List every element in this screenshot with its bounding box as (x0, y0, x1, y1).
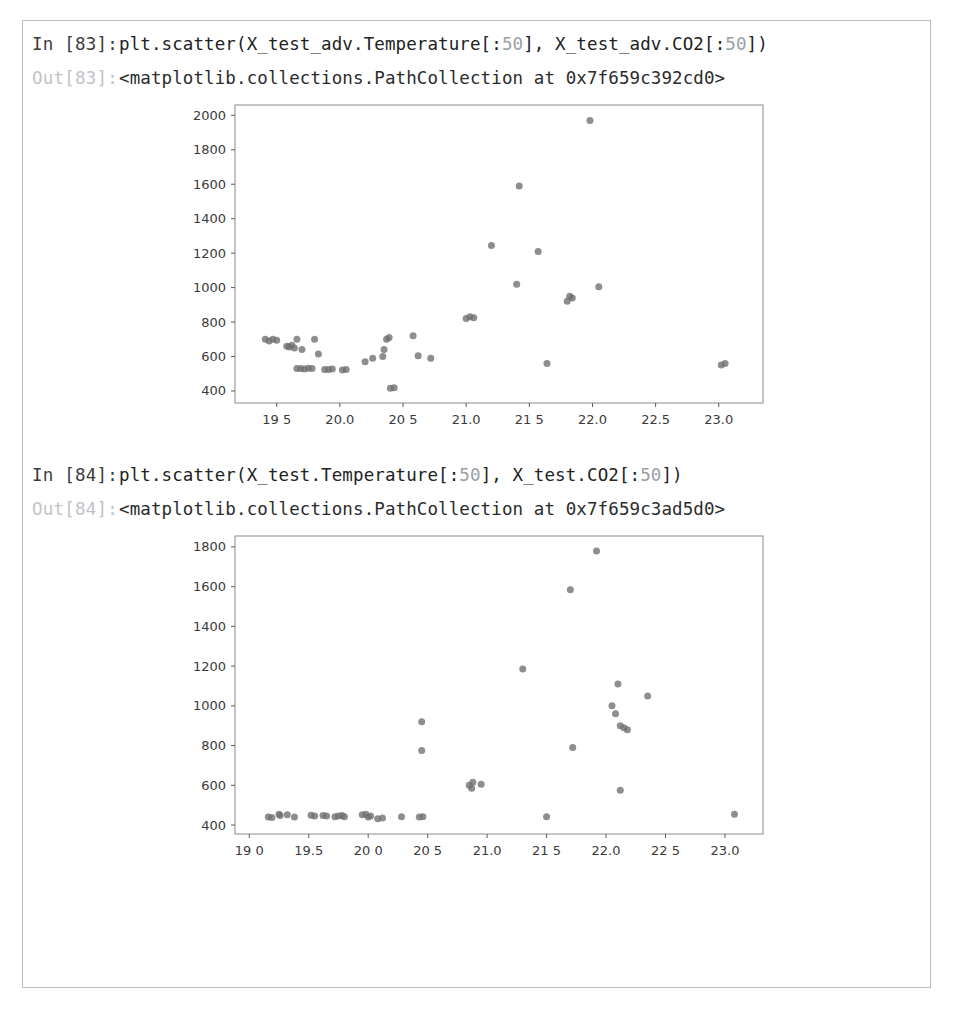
scatter-point (410, 332, 417, 339)
code-number: 50 (640, 465, 661, 485)
x-tick-label: 19 0 (235, 843, 264, 858)
x-tick-label: 20 5 (413, 843, 442, 858)
scatter-point (488, 242, 495, 249)
code-number: 50 (725, 34, 746, 54)
scatter-point (593, 547, 600, 554)
code-number: 50 (459, 465, 480, 485)
code-segment: ], X_test_adv.CO2[: (523, 34, 725, 54)
scatter-plot-adv: 40060080010001200140016001800200019 520.… (163, 95, 783, 445)
scatter-point (418, 747, 425, 754)
scatter-point (468, 785, 475, 792)
scatter-point (284, 811, 291, 818)
scatter-point (291, 814, 298, 821)
scatter-point (535, 248, 542, 255)
scatter-point (519, 666, 526, 673)
scatter-point (722, 360, 729, 367)
scatter-point (386, 334, 393, 341)
notebook-cell-84: In [84]: plt.scatter(X_test.Temperature[… (23, 456, 930, 886)
scatter-point (298, 346, 305, 353)
figure-83: 40060080010001200140016001800200019 520.… (23, 95, 930, 455)
scatter-point (415, 352, 422, 359)
y-tick-label: 1400 (193, 211, 226, 226)
x-tick-label: 19.5 (294, 843, 323, 858)
code-line-84[interactable]: plt.scatter(X_test.Temperature[:50], X_t… (119, 458, 683, 492)
y-tick-label: 600 (201, 778, 226, 793)
x-tick-label: 22.5 (641, 412, 670, 427)
out-prompt-84: Out[84]: (23, 492, 119, 526)
scatter-point (391, 384, 398, 391)
y-tick-label: 1600 (193, 579, 226, 594)
x-tick-label: 20 5 (389, 412, 418, 427)
x-tick-label: 23.0 (704, 412, 733, 427)
x-tick-label: 21.0 (473, 843, 502, 858)
scatter-point (513, 281, 520, 288)
notebook-cell-83: In [83]: plt.scatter(X_test_adv.Temperat… (23, 21, 930, 455)
out-prompt-83: Out[83]: (23, 61, 119, 95)
x-tick-label: 21.0 (452, 412, 481, 427)
scatter-point (469, 779, 476, 786)
code-number: 50 (502, 34, 523, 54)
x-tick-label: 22.0 (578, 412, 607, 427)
scatter-point (418, 718, 425, 725)
scatter-point (329, 365, 336, 372)
scatter-svg-adv: 40060080010001200140016001800200019 520.… (163, 95, 783, 445)
input-row-83[interactable]: In [83]: plt.scatter(X_test_adv.Temperat… (23, 27, 930, 61)
code-segment: ]) (661, 465, 682, 485)
input-row-84[interactable]: In [84]: plt.scatter(X_test.Temperature[… (23, 458, 930, 492)
x-tick-label: 21 5 (532, 843, 561, 858)
scatter-point (586, 117, 593, 124)
scatter-point (379, 353, 386, 360)
scatter-point (291, 344, 298, 351)
scatter-point (311, 813, 318, 820)
scatter-point (516, 182, 523, 189)
scatter-point (381, 346, 388, 353)
scatter-point (315, 350, 322, 357)
code-segment: ]) (747, 34, 768, 54)
scatter-point (569, 744, 576, 751)
scatter-point (268, 814, 275, 821)
y-tick-label: 400 (201, 818, 226, 833)
x-tick-label: 20.0 (325, 412, 354, 427)
output-row-83: Out[83]: <matplotlib.collections.PathCol… (23, 61, 930, 95)
scatter-point (478, 781, 485, 788)
scatter-point (644, 692, 651, 699)
out-text-83: <matplotlib.collections.PathCollection a… (119, 61, 725, 95)
plot-frame (235, 536, 763, 834)
figure-84: 4006008001000120014001600180019 019.520 … (23, 526, 930, 886)
scatter-point (369, 355, 376, 362)
scatter-point (612, 710, 619, 717)
scatter-point (617, 787, 624, 794)
scatter-point (731, 811, 738, 818)
y-tick-label: 800 (201, 738, 226, 753)
scatter-point (624, 726, 631, 733)
scatter-point (341, 813, 348, 820)
code-segment: plt.scatter(X_test_adv.Temperature[: (119, 34, 502, 54)
x-tick-label: 22.0 (592, 843, 621, 858)
scatter-point (293, 336, 300, 343)
scatter-point (367, 813, 374, 820)
y-tick-label: 1400 (193, 619, 226, 634)
y-tick-label: 1800 (193, 539, 226, 554)
out-text-84: <matplotlib.collections.PathCollection a… (119, 492, 725, 526)
scatter-point (543, 813, 550, 820)
scatter-point (567, 586, 574, 593)
y-tick-label: 400 (201, 383, 226, 398)
scatter-point (614, 681, 621, 688)
scatter-point (595, 283, 602, 290)
code-line-83[interactable]: plt.scatter(X_test_adv.Temperature[:50],… (119, 27, 768, 61)
y-tick-label: 1000 (193, 280, 226, 295)
in-prompt-83: In [83]: (23, 27, 119, 61)
plot-frame (235, 105, 763, 403)
scatter-point (309, 365, 316, 372)
scatter-point (379, 815, 386, 822)
y-tick-label: 1200 (193, 246, 226, 261)
output-row-84: Out[84]: <matplotlib.collections.PathCol… (23, 492, 930, 526)
scatter-point (398, 813, 405, 820)
x-tick-label: 19 5 (262, 412, 291, 427)
scatter-point (277, 812, 284, 819)
scatter-point (323, 813, 330, 820)
y-tick-label: 1800 (193, 142, 226, 157)
y-tick-label: 1200 (193, 659, 226, 674)
scatter-point (569, 294, 576, 301)
scatter-svg-plain: 4006008001000120014001600180019 019.520 … (163, 526, 783, 876)
